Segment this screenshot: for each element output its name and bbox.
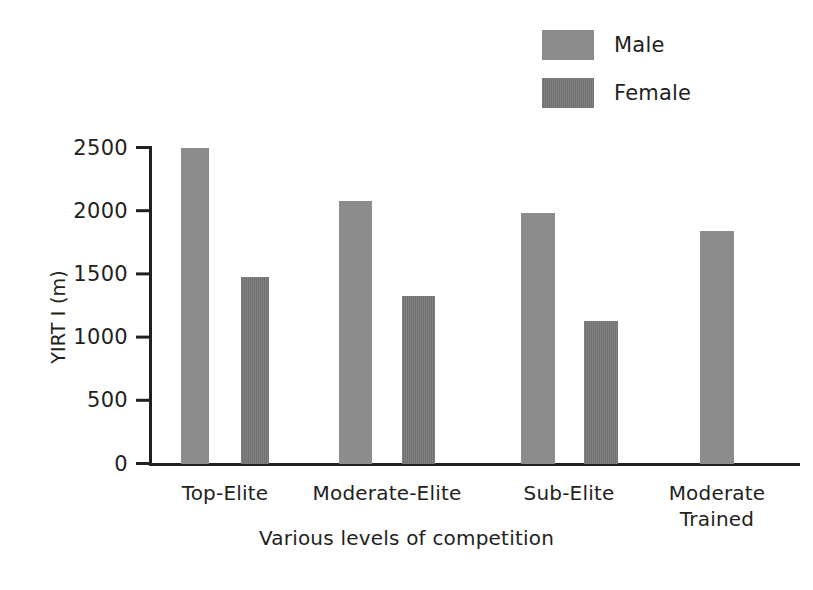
ytick-label-500: 500 [28, 388, 128, 412]
bar-female-moderate-elite [402, 296, 435, 464]
bar-male-sub-elite [521, 213, 555, 465]
bar-male-top-elite [181, 148, 209, 464]
ytick-label-2000: 2000 [28, 199, 128, 223]
bar-female-sub-elite [584, 321, 618, 464]
ytick-label-1000: 1000 [28, 325, 128, 349]
xtick-label-moderate-trained: Moderate Trained [627, 480, 807, 532]
ytick-label-1500: 1500 [28, 262, 128, 286]
bar-female-top-elite [241, 277, 269, 464]
bar-chart-figure: Male Female 2500 2000 1500 1000 500 0 [0, 0, 813, 590]
x-axis-title: Various levels of competition [0, 526, 813, 550]
bar-male-moderate-elite [339, 201, 372, 464]
ytick-label-0: 0 [28, 452, 128, 476]
y-axis-title: YIRT I (m) [47, 237, 69, 397]
ytick-label-2500: 2500 [28, 136, 128, 160]
bar-male-moderate-trained [700, 231, 734, 464]
